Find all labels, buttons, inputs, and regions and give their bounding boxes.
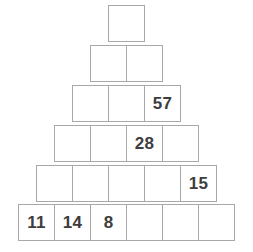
pyramid-cell[interactable] xyxy=(162,204,199,241)
pyramid-cell[interactable]: 15 xyxy=(180,165,217,202)
pyramid-cell-value: 28 xyxy=(135,135,154,152)
pyramid-row-3: 57 xyxy=(0,85,253,122)
pyramid-cell[interactable] xyxy=(108,85,145,122)
pyramid-cell[interactable] xyxy=(108,5,145,42)
pyramid-cell[interactable] xyxy=(90,45,127,82)
pyramid-cell[interactable] xyxy=(36,165,73,202)
pyramid-row-2 xyxy=(0,45,253,82)
pyramid-cell[interactable]: 28 xyxy=(126,125,163,162)
pyramid-cell-value: 57 xyxy=(153,95,172,112)
pyramid-cell[interactable] xyxy=(72,85,109,122)
number-pyramid: 57 28 15 11 14 8 xyxy=(0,0,253,252)
pyramid-row-4: 28 xyxy=(0,125,253,162)
pyramid-cell-value: 8 xyxy=(104,214,114,231)
pyramid-row-5: 15 xyxy=(0,165,253,202)
pyramid-cell[interactable]: 8 xyxy=(90,204,127,241)
pyramid-cell[interactable] xyxy=(108,165,145,202)
pyramid-cell[interactable] xyxy=(198,204,235,241)
pyramid-cell[interactable] xyxy=(162,125,199,162)
pyramid-row-1 xyxy=(0,5,253,42)
pyramid-cell[interactable]: 57 xyxy=(144,85,181,122)
pyramid-cell-value: 15 xyxy=(189,175,208,192)
pyramid-cell[interactable]: 11 xyxy=(18,204,55,241)
pyramid-cell[interactable] xyxy=(126,204,163,241)
pyramid-cell[interactable] xyxy=(126,45,163,82)
pyramid-row-6: 11 14 8 xyxy=(0,204,253,241)
pyramid-cell[interactable] xyxy=(144,165,181,202)
pyramid-cell[interactable] xyxy=(90,125,127,162)
pyramid-cell[interactable] xyxy=(72,165,109,202)
pyramid-cell-value: 14 xyxy=(63,214,82,231)
pyramid-cell[interactable] xyxy=(54,125,91,162)
pyramid-cell[interactable]: 14 xyxy=(54,204,91,241)
pyramid-cell-value: 11 xyxy=(27,214,45,231)
